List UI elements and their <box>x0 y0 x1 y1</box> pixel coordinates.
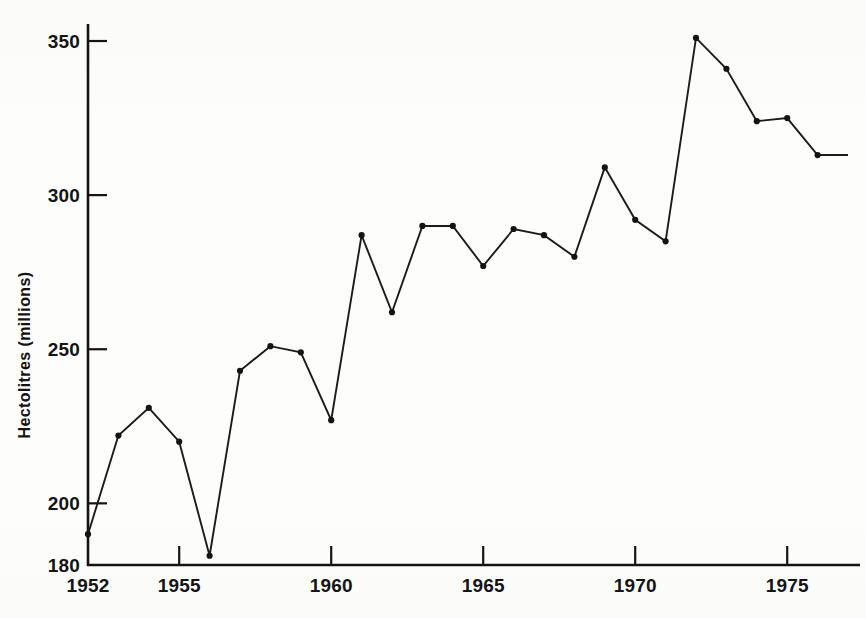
chart-svg: Hectolitres (millions) 180200250300350 1… <box>0 0 866 618</box>
data-point-1966 <box>510 226 516 232</box>
y-tick-label-300: 300 <box>48 185 80 206</box>
line-chart-figure: Hectolitres (millions) 180200250300350 1… <box>0 0 866 618</box>
axes <box>87 24 860 566</box>
data-point-1956 <box>207 553 213 559</box>
data-point-1975 <box>784 115 790 121</box>
y-axis-title-text: Hectolitres (millions) <box>16 271 33 438</box>
data-point-1960 <box>328 417 334 423</box>
data-series-line <box>88 38 848 556</box>
y-tick-label-200: 200 <box>48 493 80 514</box>
data-point-1954 <box>146 405 152 411</box>
y-axis-ticks <box>88 41 107 503</box>
data-point-1964 <box>450 223 456 229</box>
y-tick-label-250: 250 <box>48 339 80 360</box>
data-point-markers <box>85 35 821 559</box>
y-axis-title: Hectolitres (millions) <box>16 271 33 438</box>
x-tick-label-1955: 1955 <box>158 575 201 596</box>
data-point-1971 <box>663 238 669 244</box>
x-tick-label-1970: 1970 <box>614 575 657 596</box>
x-tick-label-1965: 1965 <box>462 575 505 596</box>
data-point-1969 <box>602 164 608 170</box>
data-point-1965 <box>480 263 486 269</box>
data-point-1963 <box>419 223 425 229</box>
x-tick-label-1960: 1960 <box>310 575 353 596</box>
x-tick-label-1975: 1975 <box>766 575 809 596</box>
data-point-1968 <box>571 254 577 260</box>
x-tick-label-1952: 1952 <box>66 575 109 596</box>
data-point-1957 <box>237 368 243 374</box>
data-point-1958 <box>267 343 273 349</box>
data-point-1962 <box>389 309 395 315</box>
data-point-1973 <box>723 66 729 72</box>
data-point-1961 <box>359 232 365 238</box>
data-point-1972 <box>693 35 699 41</box>
y-axis-tick-labels: 180200250300350 <box>48 31 80 576</box>
x-axis-ticks <box>179 546 787 565</box>
data-point-1952 <box>85 531 91 537</box>
y-tick-label-180: 180 <box>48 555 80 576</box>
data-point-1959 <box>298 349 304 355</box>
y-tick-label-350: 350 <box>48 31 80 52</box>
x-axis-tick-labels: 195219551960196519701975 <box>66 575 809 596</box>
data-point-1955 <box>176 439 182 445</box>
data-point-1953 <box>115 432 121 438</box>
data-point-1967 <box>541 232 547 238</box>
data-point-1974 <box>754 118 760 124</box>
data-point-1976 <box>815 152 821 158</box>
data-point-1970 <box>632 217 638 223</box>
